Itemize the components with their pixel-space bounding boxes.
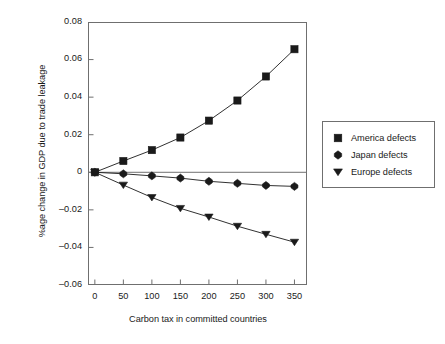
data-point-marker [148,172,155,180]
data-point-marker [120,157,127,164]
legend-label: Europe defects [351,167,412,177]
data-point-marker [176,205,184,211]
plot-canvas [88,22,307,285]
triangle-down-marker-icon [119,182,127,188]
data-point-marker [120,170,127,178]
diamond-marker-icon [177,174,184,182]
diamond-icon [331,148,345,162]
x-axis-tick-labels: 050100150200250300350 [0,291,445,307]
diamond-marker-icon [234,179,241,187]
series-line [95,49,295,172]
diamond-marker-icon [262,181,269,189]
data-point-marker [234,97,241,104]
legend-item[interactable]: Japan defects [331,146,428,163]
diamond-marker-icon [120,170,127,178]
triangle-down-marker-icon [176,205,184,211]
triangle-down-icon [331,165,345,179]
data-point-marker [334,150,341,158]
y-tick-label: 0.08 [36,16,82,26]
triangle-down-marker-icon [233,223,241,229]
data-point-marker [177,174,184,182]
y-tick-label: 0.04 [36,91,82,101]
diamond-marker-icon [291,182,298,190]
legend-label: Japan defects [351,150,408,160]
data-point-marker [262,181,269,189]
data-point-marker [291,46,298,53]
y-tick-label: 0 [36,166,82,176]
square-marker-icon [120,157,127,164]
triangle-down-marker-icon [205,214,213,220]
y-tick-label: 0.02 [36,129,82,139]
x-tick-label: 350 [277,291,311,301]
data-point-marker [148,147,155,154]
square-marker-icon [262,73,269,80]
x-axis-title: Carbon tax in committed countries [88,314,308,324]
triangle-down-marker-icon [148,195,156,201]
series-europe-defects [91,169,299,245]
data-point-marker [234,179,241,187]
diamond-marker-icon [205,177,212,185]
data-point-marker [148,195,156,201]
y-tick-label: –0.06 [36,279,82,289]
square-marker-icon [291,46,298,53]
legend-item[interactable]: Europe defects [331,163,428,180]
square-marker-icon [177,134,184,141]
data-point-marker [177,134,184,141]
chart-figure: %age change in GDP due to trade leakage … [0,0,445,344]
diamond-marker-icon [334,150,341,158]
axis-ticks [88,22,294,285]
legend-label: America defects [351,133,416,143]
square-marker-icon [334,134,342,142]
triangle-down-marker-icon [262,231,270,237]
series-america-defects [91,46,298,176]
data-point-marker [205,177,212,185]
square-icon [331,131,345,145]
triangle-down-marker-icon [290,239,298,245]
data-point-marker [334,168,343,175]
data-point-marker [290,239,298,245]
legend-item[interactable]: America defects [331,129,428,146]
data-point-marker [205,214,213,220]
data-point-marker [291,182,298,190]
square-marker-icon [234,97,241,104]
data-point-marker [205,117,212,124]
square-marker-icon [205,117,212,124]
y-tick-label: –0.04 [36,241,82,251]
data-point-marker [119,182,127,188]
diamond-marker-icon [148,172,155,180]
chart-legend: America defectsJapan defectsEurope defec… [322,121,435,188]
y-tick-label: –0.02 [36,204,82,214]
triangle-down-marker-icon [334,168,343,175]
data-point-marker [262,231,270,237]
data-point-marker [233,223,241,229]
data-point-marker [334,134,342,142]
data-point-marker [262,73,269,80]
square-marker-icon [148,147,155,154]
y-tick-label: 0.06 [36,53,82,63]
